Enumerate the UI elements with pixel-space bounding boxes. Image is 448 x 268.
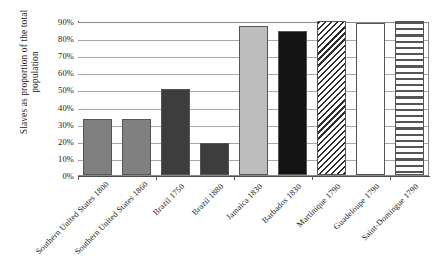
bar[interactable] bbox=[161, 89, 189, 175]
x-axis-category-label: Brazil 1880 bbox=[151, 182, 226, 257]
y-axis-tick-labels: 90%80%70%60%50%40%30%20%10%0% bbox=[38, 16, 74, 182]
y-axis-tick-label: 70% bbox=[38, 51, 74, 61]
x-axis-category-label: Martinique 1790 bbox=[268, 182, 343, 257]
bar[interactable] bbox=[239, 26, 267, 175]
bar-chart-figure: Slaves as proportion of the total popula… bbox=[0, 0, 448, 268]
bar-slot bbox=[273, 23, 312, 175]
y-axis-tick-label: 20% bbox=[38, 137, 74, 147]
bar-slot bbox=[156, 23, 195, 175]
bar-slot bbox=[312, 23, 351, 175]
x-axis-line bbox=[78, 176, 430, 177]
bar[interactable] bbox=[278, 31, 306, 175]
bar[interactable] bbox=[83, 119, 111, 175]
x-axis-category-label: Southern United States 1860 bbox=[73, 182, 148, 257]
x-axis-category-label: Guadeloupe 1790 bbox=[307, 182, 382, 257]
x-axis-tick-mark bbox=[390, 176, 391, 180]
y-axis-tick-label: 30% bbox=[38, 120, 74, 130]
x-axis-tick-mark bbox=[312, 176, 313, 180]
bar[interactable] bbox=[317, 21, 345, 175]
x-axis-tick-mark bbox=[234, 176, 235, 180]
bar-slot bbox=[117, 23, 156, 175]
x-axis-tick-mark bbox=[156, 176, 157, 180]
bar[interactable] bbox=[122, 119, 150, 175]
y-axis-tick-label: 40% bbox=[38, 103, 74, 113]
bar-slot bbox=[234, 23, 273, 175]
bar-slot bbox=[78, 23, 117, 175]
x-axis-tick-mark bbox=[78, 176, 79, 180]
plot-area bbox=[78, 22, 429, 176]
y-axis-tick-label: 60% bbox=[38, 68, 74, 78]
x-axis-category-label: Southern United States 1800 bbox=[34, 182, 109, 257]
bar-slot bbox=[390, 23, 429, 175]
x-axis-category-label: Brazil 1750 bbox=[112, 182, 187, 257]
x-axis-category-labels: Southern United States 1800Southern Unit… bbox=[0, 180, 448, 268]
y-axis-tick-label: 10% bbox=[38, 154, 74, 164]
bar-slot bbox=[195, 23, 234, 175]
y-axis-tick-label: 90% bbox=[38, 17, 74, 27]
x-axis-category-label: Jamaica 1830 bbox=[190, 182, 265, 257]
bar-slot bbox=[351, 23, 390, 175]
x-axis-category-label: Barbados 1830 bbox=[229, 182, 304, 257]
bar[interactable] bbox=[356, 23, 384, 175]
bar[interactable] bbox=[395, 21, 423, 175]
x-axis-category-label: Saint-Domingue 1790 bbox=[346, 182, 421, 257]
y-axis-tick-label: 80% bbox=[38, 34, 74, 44]
bars-layer bbox=[78, 23, 428, 175]
y-axis-tick-label: 50% bbox=[38, 85, 74, 95]
bar[interactable] bbox=[200, 143, 228, 176]
